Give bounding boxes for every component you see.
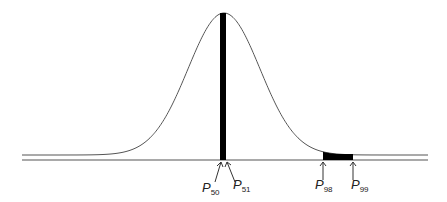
label-p99: P99 (351, 177, 369, 194)
shaded-region-p50-p51 (220, 13, 226, 160)
bell-curve-diagram: P50 P51 P98 P99 (0, 0, 447, 202)
label-p98: P98 (315, 177, 333, 194)
arrow-p50 (215, 162, 223, 182)
shaded-region-p98-p99 (323, 152, 353, 160)
label-p50: P50 (202, 180, 220, 197)
label-p51: P51 (233, 177, 251, 194)
